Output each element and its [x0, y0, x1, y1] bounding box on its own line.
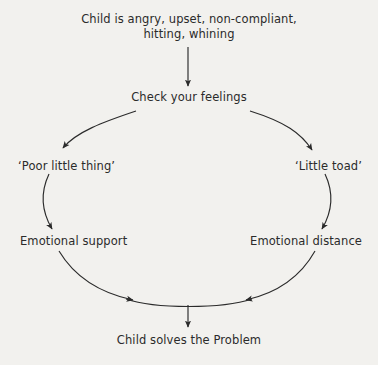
connector-emotional-support-to-cycle-base	[59, 251, 133, 300]
cycle-base-arc	[126, 299, 252, 307]
connector-check-to-poor-little-thing	[63, 111, 136, 148]
flow-connectors	[0, 0, 378, 365]
node-emotional-distance: Emotional distance	[142, 234, 362, 249]
node-poor-little-thing: ‘Poor little thing’	[18, 159, 198, 174]
connector-little-toad-to-emotional-distance	[322, 174, 331, 229]
node-little-toad: ‘Little toad’	[182, 159, 362, 174]
node-trigger: Child is angry, upset, non-compliant, hi…	[0, 12, 378, 41]
connector-poor-little-thing-to-emotional-support	[43, 174, 52, 229]
connector-emotional-distance-to-cycle-base	[246, 251, 315, 300]
connector-check-to-little-toad	[250, 111, 312, 150]
diagram-canvas: Child is angry, upset, non-compliant, hi…	[0, 0, 378, 365]
node-child-solves-the-problem: Child solves the Problem	[0, 333, 378, 348]
node-check-your-feelings: Check your feelings	[0, 90, 378, 105]
